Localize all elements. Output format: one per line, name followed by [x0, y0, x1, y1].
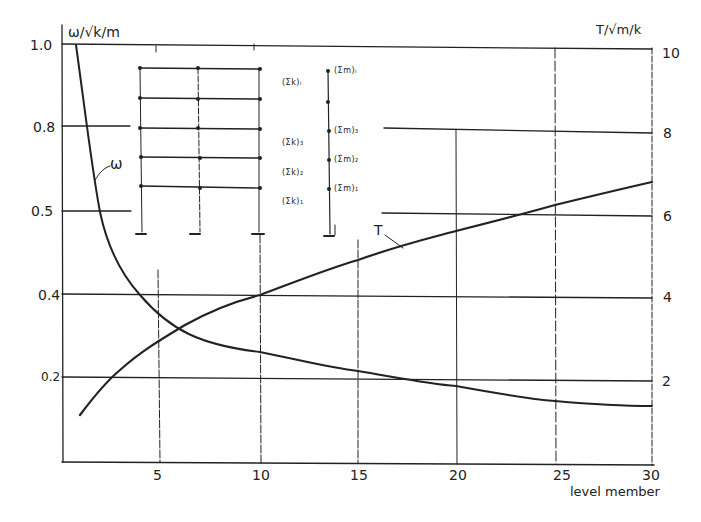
chart-canvas: [0, 0, 701, 522]
left-axis: [62, 25, 63, 462]
inset-frame-diagram: [136, 68, 334, 236]
T-leader: [385, 235, 403, 248]
y-left-tick: 0.4: [38, 287, 60, 303]
grid-h-0.4: [62, 294, 652, 298]
y-left-title: ω/√k/m: [68, 24, 120, 40]
y-right-tick: 6: [663, 208, 672, 224]
y-right-tick: 8: [663, 125, 672, 141]
omega-curve-label: ω: [110, 155, 123, 173]
T-curve-label: T: [374, 222, 383, 238]
x-tick: 10: [252, 467, 270, 483]
y-left-tick: 1.0: [30, 37, 52, 53]
y-left-tick: 0.5: [31, 203, 53, 219]
x-tick: 5: [153, 467, 162, 483]
x-tick: 30: [642, 467, 660, 483]
y-right-tick: 10: [662, 45, 680, 61]
grid-h-1.0: [62, 44, 652, 49]
y-right-tick: 2: [662, 373, 671, 389]
grid-v-10: [260, 235, 261, 463]
y-left-tick: 0.2: [41, 370, 60, 384]
omega-curve: [76, 45, 652, 406]
inset-m-label: (Σm)₂: [334, 155, 359, 164]
grid-h-0.8-right: [384, 128, 652, 133]
x-tick: 25: [553, 467, 571, 483]
y-right-title: T/√m/k: [596, 22, 641, 37]
inset-m-label: (Σm)₁: [334, 184, 359, 193]
inset-k-label: (Σk)ᵢ: [282, 78, 302, 87]
x-tick: 15: [350, 467, 368, 483]
omega-leader: [95, 166, 110, 180]
grid-h-0.2: [62, 377, 652, 381]
y-right-tick: 4: [663, 289, 672, 305]
y-left-tick: 0.8: [33, 119, 55, 135]
inset-k-label: (Σk)₁: [282, 197, 304, 206]
inset-m-label: (Σm)₃: [334, 126, 359, 135]
inset-m-label: (Σm)ᵢ: [334, 66, 357, 75]
x-title: level member: [570, 484, 660, 499]
x-tick: 20: [449, 467, 467, 483]
grid-v-20: [456, 130, 457, 464]
inset-k-label: (Σk)₃: [282, 138, 304, 147]
grid-v-5: [158, 270, 160, 462]
inset-k-label: (Σk)₂: [282, 168, 304, 177]
